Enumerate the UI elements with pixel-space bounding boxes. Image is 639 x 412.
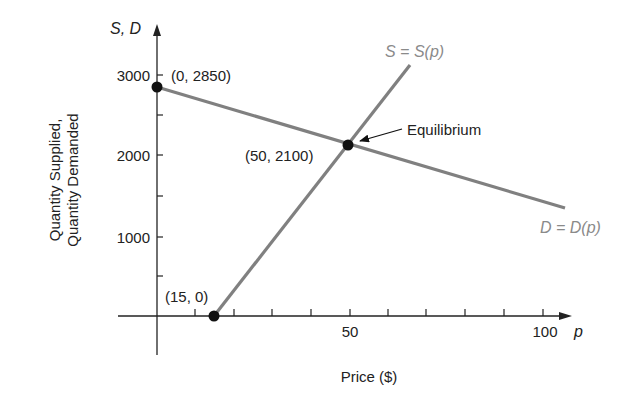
supply-curve-label: S = S(p) xyxy=(385,43,444,60)
x-axis-variable-label: p xyxy=(573,323,583,340)
equilibrium-label: Equilibrium xyxy=(407,121,481,138)
x-axis xyxy=(118,309,572,320)
y-axis-arrow-icon xyxy=(153,24,161,36)
supply-line xyxy=(214,65,410,316)
point-equilibrium xyxy=(343,140,354,151)
x-tick-label-50: 50 xyxy=(342,323,359,340)
y-axis-title-line2: Quantity Demanded xyxy=(64,113,81,246)
y-axis-variable-label: S, D xyxy=(110,20,142,37)
demand-curve-label: D = D(p) xyxy=(540,219,601,236)
y-tick-label-1000: 1000 xyxy=(117,229,150,246)
supply-demand-chart: 3000 2000 1000 50 100 S, D p Quantity Su… xyxy=(0,0,639,412)
y-tick-label-2000: 2000 xyxy=(117,147,150,164)
point-demand-intercept xyxy=(152,82,163,93)
x-axis-arrow-icon xyxy=(559,312,572,320)
x-tick-label-100: 100 xyxy=(532,323,557,340)
equilibrium-arrow-icon xyxy=(360,129,402,141)
point-label-50-2100: (50, 2100) xyxy=(245,147,313,164)
y-axis-title-line1: Quantity Supplied, xyxy=(46,119,63,242)
y-axis xyxy=(153,24,163,355)
y-axis-title: Quantity Supplied, Quantity Demanded xyxy=(46,113,81,246)
point-supply-intercept xyxy=(209,311,220,322)
demand-line xyxy=(157,87,565,208)
point-label-15-0: (15, 0) xyxy=(165,288,208,305)
x-axis-title: Price ($) xyxy=(341,368,398,385)
y-tick-label-3000: 3000 xyxy=(117,67,150,84)
point-label-0-2850: (0, 2850) xyxy=(171,67,231,84)
